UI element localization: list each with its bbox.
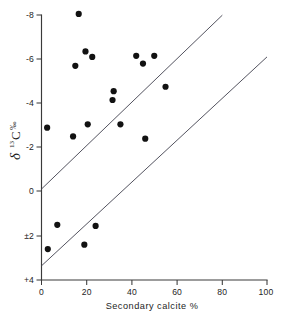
x-axis-title: Secondary calcite %: [106, 301, 199, 311]
data-point: [72, 63, 78, 69]
scatter-chart-figure: -8 -6 -4 -2 0 ±2 +4 0 20 40 60 80 100 Se…: [0, 0, 286, 315]
x-tick-label: 80: [217, 287, 227, 297]
upper-bound-line: [42, 15, 223, 189]
data-point: [117, 121, 123, 127]
x-tick-labels: 0 20 40 60 80 100: [39, 287, 273, 297]
y-tick-label: -2: [26, 142, 34, 152]
x-tick-label: 40: [127, 287, 137, 297]
plot-area: -8 -6 -4 -2 0 ±2 +4 0 20 40 60 80 100 Se…: [0, 0, 286, 315]
data-point: [109, 97, 115, 103]
y-axis-title-units: ‰: [8, 121, 18, 130]
x-tick-marks: [42, 280, 268, 285]
x-tick-label: 100: [259, 287, 274, 297]
y-axis-title-delta: δ: [7, 152, 23, 160]
data-point: [93, 223, 99, 229]
x-tick-label: 20: [82, 287, 92, 297]
y-tick-labels: -8 -6 -4 -2 0 ±2 +4: [24, 10, 34, 285]
data-point: [111, 88, 117, 94]
data-point: [44, 125, 50, 131]
data-point: [54, 222, 60, 228]
data-point: [140, 60, 146, 66]
data-point: [133, 53, 139, 59]
data-point: [76, 11, 82, 17]
y-tick-label: -4: [26, 98, 34, 108]
x-tick-label: 0: [39, 287, 44, 297]
y-axis-title-element: C: [8, 131, 23, 140]
data-point: [70, 133, 76, 139]
y-axis-title: δ 13 C ‰: [7, 121, 23, 160]
y-tick-label: 0: [29, 186, 34, 196]
y-tick-label: +4: [24, 275, 34, 285]
data-point: [89, 54, 95, 60]
y-tick-label: ±2: [24, 231, 34, 241]
data-point: [151, 53, 157, 59]
y-tick-label: -8: [26, 10, 34, 20]
y-axis-title-superscript: 13: [8, 141, 16, 149]
y-tick-label: -6: [26, 54, 34, 64]
x-tick-label: 60: [172, 287, 182, 297]
data-point: [82, 48, 88, 54]
data-point: [45, 246, 51, 252]
data-points-layer: [44, 11, 169, 252]
data-point: [85, 121, 91, 127]
data-point: [81, 242, 87, 248]
lower-bound-line: [42, 57, 268, 266]
data-point: [162, 84, 168, 90]
data-point: [142, 136, 148, 142]
y-tick-marks: [37, 15, 42, 280]
